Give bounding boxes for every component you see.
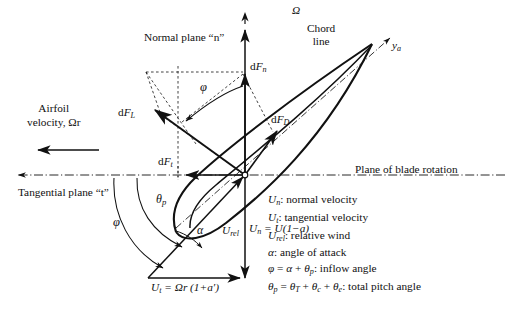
legend-item-inflow-angle: φ = α + θp: inflow angle <box>268 260 421 278</box>
blade-element-diagram <box>0 0 513 314</box>
tangential-force-label: dFt <box>158 155 173 169</box>
chord-line-label-row2: line <box>313 35 330 47</box>
legend-item-tangential-velocity: Ut: tangential velocity <box>268 209 421 227</box>
relative-wind-label: Urel <box>222 224 239 238</box>
angle-of-attack-label: α <box>197 224 203 237</box>
inflow-angle-label: φ <box>113 215 120 229</box>
chord-axis-label: ya <box>392 39 401 53</box>
lift-force-label: dFL <box>118 106 135 120</box>
inflow-angle-arc-top <box>186 86 243 121</box>
pivot-point <box>242 172 248 178</box>
drag-force-label: dFD <box>271 113 289 127</box>
legend-item-normal-velocity: Un: normal velocity <box>268 191 421 209</box>
legend: Un: normal velocity Ut: tangential veloc… <box>268 191 421 296</box>
airfoil-velocity-label: Airfoil velocity, Ωr <box>27 102 80 130</box>
pitch-angle-label: θp <box>156 193 166 208</box>
legend-item-relative-wind: Urel: relative wind <box>268 227 421 245</box>
normal-force-label: dFn <box>250 60 267 74</box>
legend-item-total-pitch-angle: θp = θT + θc + θe: total pitch angle <box>268 278 421 296</box>
inflow-angle-label-top: φ <box>200 80 207 94</box>
chord-line-label-row1: Chord <box>307 22 335 34</box>
airfoil-velocity-row2: velocity, Ωr <box>27 116 80 128</box>
rotation-axis-label: Ω <box>292 4 300 17</box>
normal-plane-label: Normal plane “n” <box>144 31 224 44</box>
legend-item-angle-of-attack: α: angle of attack <box>268 244 421 260</box>
tangential-velocity-label: Ut = Ωr (1+a′) <box>151 281 219 295</box>
plane-of-blade-rotation-label: Plane of blade rotation <box>355 163 458 176</box>
tangential-plane-label: Tangential plane “t” <box>18 186 109 199</box>
figure-canvas: Ω Normal plane “n” Chord line ya dFn dFL… <box>0 0 513 314</box>
chord-line-label: Chord line <box>307 22 335 49</box>
airfoil-velocity-row1: Airfoil <box>38 102 69 114</box>
